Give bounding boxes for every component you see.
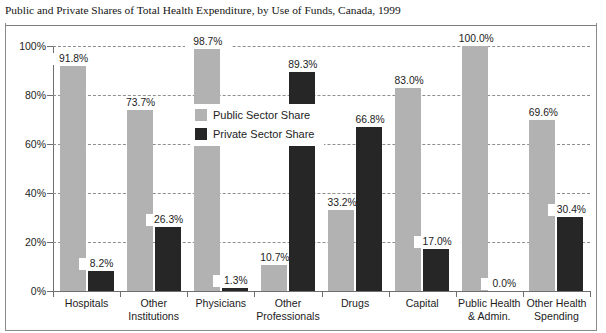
y-tick-mark bbox=[47, 46, 53, 47]
bar-value-label: 89.3% bbox=[280, 59, 326, 71]
bar-value-label: 66.8% bbox=[347, 114, 393, 126]
legend-swatch-private-icon bbox=[195, 128, 207, 140]
category-label: OtherProfessionals bbox=[254, 297, 321, 323]
bar-pub bbox=[395, 88, 421, 291]
bar-priv bbox=[155, 227, 181, 291]
bar-pub bbox=[462, 46, 488, 291]
y-tick-label: 40% bbox=[2, 187, 46, 199]
title-bar: Public and Private Shares of Total Healt… bbox=[5, 3, 597, 27]
y-tick-label: 100% bbox=[2, 40, 46, 52]
legend-label-private: Private Sector Share bbox=[213, 125, 315, 143]
bar-value-label: 8.2% bbox=[79, 258, 125, 270]
bar-value-label: 83.0% bbox=[386, 75, 432, 87]
plot-area: 91.8%8.2%73.7%26.3%98.7%1.3%10.7%89.3%33… bbox=[53, 46, 590, 291]
bar-value-label: 100.0% bbox=[453, 33, 499, 45]
bar-pub bbox=[328, 210, 354, 291]
bar-value-label: 26.3% bbox=[146, 214, 192, 226]
y-tick-label: 0% bbox=[2, 285, 46, 297]
bar-value-label: 98.7% bbox=[185, 36, 231, 48]
chart-legend: Public Sector Share Private Sector Share bbox=[190, 104, 324, 146]
bar-priv bbox=[222, 288, 248, 291]
bar-priv bbox=[88, 271, 114, 291]
legend-label-public: Public Sector Share bbox=[213, 106, 310, 124]
y-tick-mark bbox=[47, 95, 53, 96]
bar-pub bbox=[261, 265, 287, 291]
category-label: Capital bbox=[389, 297, 456, 310]
chart-figure: Public and Private Shares of Total Healt… bbox=[0, 0, 606, 333]
y-tick-mark bbox=[47, 193, 53, 194]
y-tick-label: 20% bbox=[2, 236, 46, 248]
bar-pub bbox=[194, 49, 220, 291]
bar-priv bbox=[557, 217, 583, 291]
bar-priv bbox=[423, 249, 449, 291]
category-label: Physicians bbox=[187, 297, 254, 310]
bar-value-label: 30.4% bbox=[548, 204, 594, 216]
category-label: OtherInstitutions bbox=[120, 297, 187, 323]
gridline bbox=[53, 95, 590, 96]
gridline bbox=[53, 46, 590, 47]
chart-title: Public and Private Shares of Total Healt… bbox=[5, 4, 401, 16]
category-label: Drugs bbox=[322, 297, 389, 310]
y-tick-mark bbox=[47, 291, 53, 292]
bar-value-label: 73.7% bbox=[118, 97, 164, 109]
title-divider bbox=[5, 25, 597, 26]
frame-right-border bbox=[596, 23, 597, 331]
y-tick-label: 80% bbox=[2, 89, 46, 101]
bar-priv bbox=[356, 127, 382, 291]
y-tick-mark bbox=[47, 144, 53, 145]
legend-swatch-public-icon bbox=[195, 109, 207, 121]
bar-pub bbox=[127, 110, 153, 291]
category-label: Other HealthSpending bbox=[523, 297, 590, 323]
bar-value-label: 0.0% bbox=[481, 278, 527, 290]
category-label: Public Health& Admin. bbox=[456, 297, 523, 323]
bar-value-label: 1.3% bbox=[213, 275, 259, 287]
bar-value-label: 91.8% bbox=[51, 53, 97, 65]
bar-value-label: 69.6% bbox=[520, 107, 566, 119]
frame-bottom-border bbox=[5, 330, 597, 331]
category-label: Hospitals bbox=[53, 297, 120, 310]
y-tick-mark bbox=[47, 242, 53, 243]
category-tick bbox=[590, 291, 591, 297]
y-tick-label: 60% bbox=[2, 138, 46, 150]
y-axis-tick-labels: 0%20%40%60%80%100% bbox=[0, 0, 46, 333]
bar-value-label: 17.0% bbox=[414, 236, 460, 248]
